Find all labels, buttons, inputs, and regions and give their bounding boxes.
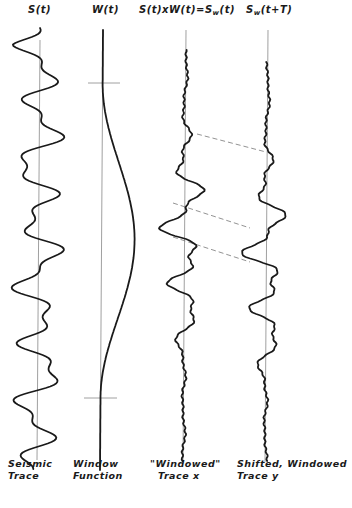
trace-axes <box>37 30 268 470</box>
seismic-trace <box>12 28 65 469</box>
header-windowed: S(t)xW(t)=Sw(t) <box>139 4 235 17</box>
correlation-lines <box>173 134 266 262</box>
correlation-line-1 <box>197 134 266 152</box>
shifted-windowed-trace-y <box>242 62 285 461</box>
traces <box>12 28 286 470</box>
header-window: W(t) <box>92 4 119 15</box>
header-shifted: Sw(t+T) <box>246 4 292 17</box>
header-seismic: S(t) <box>28 4 51 15</box>
axis-seismic <box>37 40 40 460</box>
caption-window: WindowFunction <box>73 458 123 482</box>
window-function-curve <box>100 30 135 470</box>
seismic-window-diagram <box>0 0 352 508</box>
caption-shifted: Shifted, WindowedTrace y <box>237 458 347 482</box>
caption-seismic: SeismicTrace <box>8 458 52 482</box>
windowed-trace-x <box>159 50 205 461</box>
caption-windowed: "Windowed"Trace x <box>150 458 221 482</box>
